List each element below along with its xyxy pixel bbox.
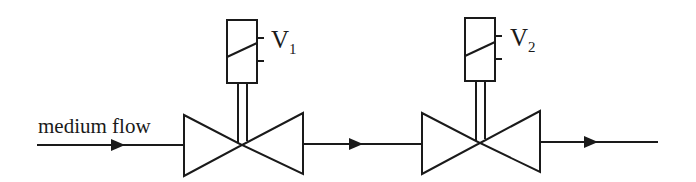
valve-label-v1: V1 <box>271 26 297 57</box>
valve-label-v2: V2 <box>510 24 536 55</box>
flow-arrow-icon <box>584 136 598 148</box>
solenoid-coil-line <box>465 42 495 56</box>
valve-body-right <box>242 113 303 174</box>
valve-body-left <box>422 113 480 174</box>
valve-diagram: medium flow V1 V2 <box>0 0 696 182</box>
valve-body-right <box>480 111 540 172</box>
solenoid-actuator <box>227 20 257 83</box>
flow-arrow-icon <box>111 139 125 151</box>
valve-body-left <box>184 115 242 176</box>
flow-arrow-icon <box>349 138 363 150</box>
solenoid-coil-line <box>227 43 257 57</box>
flow-label: medium flow <box>38 114 151 138</box>
